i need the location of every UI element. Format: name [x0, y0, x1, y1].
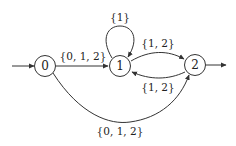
node-2-label: 2	[191, 58, 199, 72]
edge-1-to-2	[131, 52, 184, 61]
edge-label-1-loop: {1}	[110, 11, 130, 24]
edge-label-2-to-1: {1, 2}	[141, 81, 174, 94]
edge-1-self-loop	[106, 26, 134, 58]
node-2: 2	[185, 55, 206, 76]
node-1-label: 1	[116, 59, 124, 73]
edge-label-1-to-2: {1, 2}	[141, 37, 174, 50]
edge-2-to-1	[132, 72, 185, 78]
automaton-diagram: {0, 1, 2} {1} {1, 2} {1, 2} {0, 1, 2} 0 …	[0, 0, 236, 146]
node-0: 0	[35, 56, 56, 77]
node-1: 1	[110, 56, 131, 77]
node-0-label: 0	[41, 59, 49, 73]
edge-label-0-to-2: {0, 1, 2}	[97, 125, 144, 138]
edge-label-0-to-1: {0, 1, 2}	[60, 50, 107, 63]
